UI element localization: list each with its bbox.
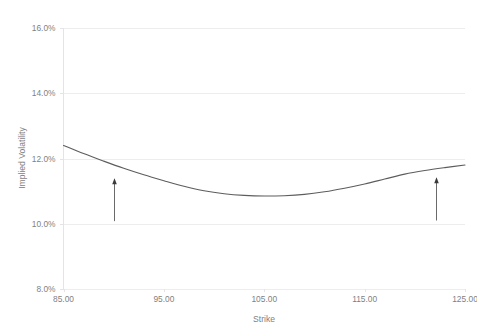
chart-canvas: 8.0%10.0%12.0%14.0%16.0% 85.0095.00105.0…	[0, 0, 477, 333]
y-axis-tick-labels: 8.0%10.0%12.0%14.0%16.0%	[32, 23, 64, 294]
annotation-right-arrow	[434, 177, 439, 220]
arrow-head-icon	[434, 177, 439, 183]
x-axis-title: Strike	[253, 314, 275, 324]
x-tick-label: 85.00	[53, 294, 74, 304]
gridlines-group	[64, 29, 466, 290]
y-tick-label: 16.0%	[32, 23, 56, 33]
x-tick-label: 95.00	[153, 294, 174, 304]
annotation-left-arrow	[112, 178, 117, 221]
y-tick-label: 10.0%	[32, 219, 56, 229]
x-tick-label: 125.00	[452, 294, 477, 304]
annotations-group	[112, 177, 439, 221]
y-tick-label: 14.0%	[32, 88, 56, 98]
y-tick-label: 12.0%	[32, 154, 56, 164]
x-axis-tick-labels: 85.0095.00105.00115.00125.00	[53, 289, 477, 304]
y-axis-title: Implied Volatility	[17, 126, 27, 188]
x-tick-label: 105.00	[251, 294, 277, 304]
y-tick-label: 8.0%	[36, 284, 56, 294]
implied-volatility-chart: 8.0%10.0%12.0%14.0%16.0% 85.0095.00105.0…	[0, 0, 477, 333]
arrow-head-icon	[112, 178, 117, 184]
x-tick-label: 115.00	[352, 294, 377, 304]
volatility-smile-line	[64, 145, 466, 196]
